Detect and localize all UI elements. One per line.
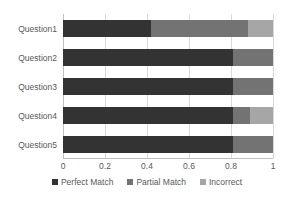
x-tick-label: 0 (61, 161, 66, 172)
legend-label: Incorrect (209, 177, 242, 187)
bar-row (63, 107, 273, 124)
x-tick-label: 0.2 (99, 161, 111, 172)
category-label-4: Question4 (18, 111, 57, 121)
x-tick-label: 0.8 (225, 161, 237, 172)
bar-segment-partial-match (233, 78, 273, 95)
square-marker-icon (127, 179, 133, 185)
bar-segment-incorrect (250, 107, 273, 124)
bar-segment-perfect-match (63, 49, 233, 66)
bar-segment-partial-match (233, 49, 273, 66)
legend-label: Perfect Match (61, 177, 113, 187)
category-label-3: Question3 (18, 82, 57, 92)
category-label-1: Question1 (18, 24, 57, 34)
bar-series-container (63, 14, 273, 159)
bar-segment-perfect-match (63, 107, 233, 124)
bar-segment-perfect-match (63, 78, 233, 95)
gridline (273, 14, 274, 159)
bar-row (63, 136, 273, 153)
bar-row (63, 78, 273, 95)
stacked-bar-chart: Question1Question2Question3Question4Ques… (0, 0, 294, 203)
x-tick-label: 1 (271, 161, 276, 172)
category-label-2: Question2 (18, 53, 57, 63)
value-axis-tick-labels: 00.20.40.60.81 (63, 161, 273, 173)
category-label-5: Question5 (18, 140, 57, 150)
square-marker-icon (52, 179, 58, 185)
legend-label: Partial Match (136, 177, 186, 187)
bar-segment-partial-match (233, 136, 273, 153)
square-marker-icon (200, 179, 206, 185)
bar-segment-incorrect (248, 20, 273, 37)
chart-legend: Perfect MatchPartial MatchIncorrect (0, 177, 294, 187)
bar-segment-perfect-match (63, 136, 233, 153)
plot-area (63, 14, 273, 159)
bar-segment-partial-match (151, 20, 248, 37)
category-axis-labels: Question1Question2Question3Question4Ques… (0, 14, 61, 159)
bar-segment-partial-match (233, 107, 250, 124)
bar-row (63, 20, 273, 37)
legend-item-incorrect[interactable]: Incorrect (200, 177, 242, 187)
bar-row (63, 49, 273, 66)
x-tick-label: 0.4 (141, 161, 153, 172)
x-tick-label: 0.6 (183, 161, 195, 172)
legend-item-partial-match[interactable]: Partial Match (127, 177, 186, 187)
legend-item-perfect-match[interactable]: Perfect Match (52, 177, 113, 187)
bar-segment-perfect-match (63, 20, 151, 37)
